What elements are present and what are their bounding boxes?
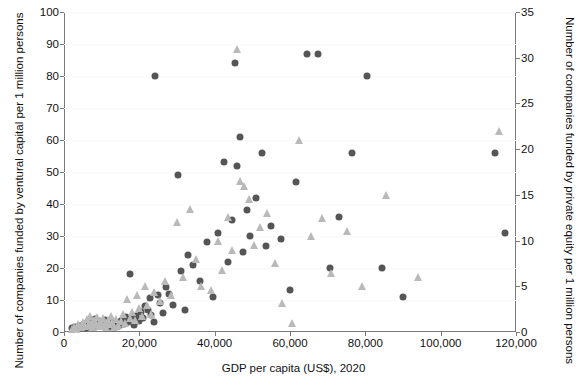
y-axis-right-tick-label: 15 (521, 189, 534, 201)
data-point-triangle (271, 259, 279, 267)
gridline (64, 12, 516, 13)
x-axis-tick-label: 100,000 (420, 337, 462, 349)
gridline (64, 76, 516, 77)
data-point-triangle (138, 312, 146, 320)
data-point-triangle (288, 319, 296, 327)
data-point-triangle (327, 269, 335, 277)
y-axis-right-tickmark (516, 241, 520, 242)
data-point-circle (215, 229, 222, 236)
data-point-circle (243, 207, 250, 214)
x-axis-tick-label: 60,000 (272, 337, 307, 349)
x-axis-tickmark (441, 332, 442, 336)
data-point-triangle (414, 273, 422, 281)
data-point-triangle (228, 246, 236, 254)
data-point-triangle (495, 127, 503, 135)
gridline (64, 172, 516, 173)
y-axis-left-tickmark (60, 76, 64, 77)
x-axis-tick-label: 0 (61, 337, 67, 349)
data-point-circle (268, 223, 275, 230)
x-axis-tickmark (215, 332, 216, 336)
y-axis-left-tickmark (60, 108, 64, 109)
data-point-triangle (256, 223, 264, 231)
data-point-circle (224, 258, 231, 265)
y-axis-left-tick-label: 80 (46, 70, 59, 82)
data-point-triangle (240, 182, 248, 190)
data-point-circle (400, 293, 407, 300)
y-axis-right-tick-label: 20 (521, 143, 534, 155)
y-axis-left-tick-label: 30 (46, 230, 59, 242)
y-axis-right-tick-label: 5 (521, 280, 527, 292)
data-point-circle (349, 149, 356, 156)
y-axis-right-tick-label: 25 (521, 97, 534, 109)
data-point-triangle (186, 205, 194, 213)
data-point-circle (335, 213, 342, 220)
gridline (64, 140, 516, 141)
y-axis-left-tick-label: 50 (46, 166, 59, 178)
y-axis-right-title: Number of companies funded by private eq… (553, 0, 587, 380)
data-point-triangle (343, 227, 351, 235)
data-point-circle (501, 229, 508, 236)
gridline (64, 108, 516, 109)
x-axis-tick-label: 80,000 (348, 337, 383, 349)
gridline (64, 300, 516, 301)
data-point-circle (232, 60, 239, 67)
data-point-circle (170, 301, 177, 308)
y-axis-left-title-text: Number of companies funded by ventural c… (12, 12, 27, 368)
y-axis-left-title: Number of companies funded by ventural c… (2, 0, 36, 380)
data-point-circle (181, 306, 188, 313)
y-axis-left-tickmark (60, 236, 64, 237)
y-axis-left-tick-label: 100 (40, 6, 59, 18)
y-axis-right-tickmark (516, 12, 520, 13)
plot-area: 0102030405060708090100 05101520253035 02… (64, 12, 516, 332)
data-point-triangle (123, 295, 131, 303)
x-axis-tickmark (139, 332, 140, 336)
data-point-triangle (207, 286, 215, 294)
data-point-triangle (150, 288, 158, 296)
data-point-triangle (224, 213, 232, 221)
x-axis-title-text: GDP per capita (US$), 2020 (222, 362, 366, 374)
y-axis-left-tickmark (60, 300, 64, 301)
data-point-circle (239, 249, 246, 256)
y-axis-right-title-text: Number of companies funded by private eq… (563, 16, 578, 363)
y-axis-left-tickmark (60, 172, 64, 173)
data-point-triangle (382, 191, 390, 199)
data-point-circle (204, 239, 211, 246)
data-point-triangle (295, 136, 303, 144)
data-point-triangle (179, 273, 187, 281)
gridline (64, 44, 516, 45)
gridline (64, 204, 516, 205)
y-axis-left-tick-label: 20 (46, 262, 59, 274)
y-axis-right-tickmark (516, 149, 520, 150)
y-axis-left-tickmark (60, 44, 64, 45)
data-point-circle (174, 172, 181, 179)
y-axis-left-tick-label: 10 (46, 294, 59, 306)
data-point-circle (150, 319, 157, 326)
data-point-triangle (197, 282, 205, 290)
data-point-circle (221, 159, 228, 166)
y-axis-right-tickmark (516, 286, 520, 287)
data-point-circle (185, 252, 192, 259)
data-point-circle (237, 133, 244, 140)
data-point-circle (262, 242, 269, 249)
data-point-triangle (263, 209, 271, 217)
data-point-circle (234, 162, 241, 169)
scatter-chart: Number of companies funded by ventural c… (0, 0, 587, 380)
data-point-triangle (245, 195, 253, 203)
y-axis-right-tickmark (516, 103, 520, 104)
data-point-circle (159, 309, 166, 316)
data-point-triangle (358, 282, 366, 290)
data-point-circle (209, 293, 216, 300)
x-axis-tickmark (64, 332, 65, 336)
data-point-circle (287, 287, 294, 294)
y-axis-right-tick-label: 10 (521, 235, 534, 247)
x-axis-tickmark (516, 332, 517, 336)
y-axis-right-tickmark (516, 195, 520, 196)
data-point-circle (258, 149, 265, 156)
data-point-triangle (218, 266, 226, 274)
data-point-triangle (161, 277, 169, 285)
x-axis-title: GDP per capita (US$), 2020 (0, 362, 587, 374)
data-point-triangle (250, 241, 258, 249)
data-point-circle (292, 178, 299, 185)
gridline (64, 236, 516, 237)
y-axis-left-tick-label: 0 (53, 326, 59, 338)
